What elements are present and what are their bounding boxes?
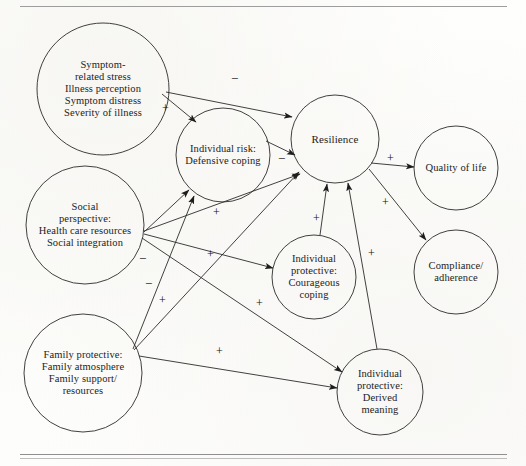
node-circle-individual-protective-courageous-coping[interactable] [272,235,356,319]
node-circle-family-protective[interactable] [24,314,142,432]
node-circle-compliance-adherence[interactable] [414,230,498,314]
node-circle-social-perspective[interactable] [26,166,144,284]
figure-canvas: Symptom- related stress Illness percepti… [0,0,526,466]
node-circle-individual-protective-derived-meaning[interactable] [337,349,423,435]
node-circle-symptom-related-stress[interactable] [37,23,169,155]
diagram-graphics [0,0,526,466]
node-circle-individual-risk-defensive-coping[interactable] [176,108,270,202]
edge-family-to-derived-meaning [139,356,337,388]
edge-social-to-courageous-coping [144,234,273,268]
edge-layer [133,92,426,388]
node-layer [24,23,498,435]
node-circle-quality-of-life[interactable] [414,126,498,210]
edge-courageous-coping-to-resilience [320,184,327,235]
edge-resilience-to-quality-of-life [371,163,414,167]
node-circle-resilience[interactable] [291,95,379,183]
